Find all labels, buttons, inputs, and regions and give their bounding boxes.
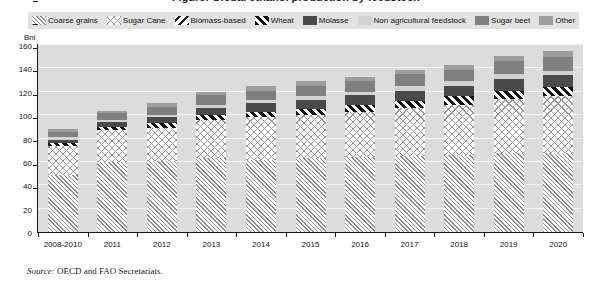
bar-segment-sugar-beet: [97, 113, 127, 120]
page-title: Figure: Global ethanol production by fee…: [0, 0, 591, 8]
x-axis-tick: [335, 233, 336, 237]
bar-segment-wheat: [345, 105, 375, 112]
y-axis-tick: [33, 95, 38, 96]
legend-swatch-icon: [475, 16, 489, 25]
bar-segment-sugar-cane: [444, 105, 474, 155]
y-axis-tick: [33, 48, 38, 49]
page-title-text: Figure: Global ethanol production by fee…: [0, 0, 591, 3]
y-axis-tick: [33, 24, 38, 25]
legend-item-label: Biomass-based: [191, 16, 246, 25]
y-axis-tick-label: 140: [2, 65, 32, 74]
bar-2012[interactable]: [147, 103, 177, 232]
legend-swatch-icon: [107, 16, 121, 25]
legend-item-label: Other: [555, 16, 575, 25]
bar-2018[interactable]: [444, 65, 474, 232]
bar-segment-sugar-cane: [147, 128, 177, 161]
legend-item-non-agricultural-feedstock[interactable]: Non agricultural feedstock: [358, 16, 467, 25]
legend-swatch-icon: [358, 16, 372, 25]
legend-item-label: Wheat: [271, 16, 294, 25]
y-axis-tick-label: 60: [2, 159, 32, 168]
gridline: [38, 44, 583, 45]
y-axis-tick: [33, 1, 38, 2]
bar-segment-wheat: [444, 96, 474, 104]
legend-item-label: Non agricultural feedstock: [374, 16, 467, 25]
x-axis-tick-label: 2014: [236, 240, 286, 249]
y-axis-tick: [33, 71, 38, 72]
x-axis-tick-label: 2011: [88, 240, 138, 249]
bar-segment-coarse-grains: [246, 160, 276, 232]
x-axis-tick: [88, 233, 89, 237]
bar-segment-molasse: [543, 75, 573, 87]
bar-segment-sugar-beet: [246, 91, 276, 100]
y-axis-tick: [33, 188, 38, 189]
bar-segment-sugar-cane: [196, 120, 226, 159]
bar-segment-coarse-grains: [345, 157, 375, 232]
legend-item-sugar-cane[interactable]: Sugar Cane: [107, 16, 166, 25]
legend-swatch-icon: [303, 16, 317, 25]
bar-2011[interactable]: [97, 111, 127, 233]
source-label: Source:: [27, 266, 55, 276]
bar-segment-molasse: [444, 86, 474, 97]
bar-segment-sugar-beet: [444, 70, 474, 82]
y-axis-tick-label: 100: [2, 112, 32, 121]
y-axis-tick-label: 80: [2, 136, 32, 145]
legend-item-biomass-based[interactable]: Biomass-based: [175, 16, 246, 25]
legend-swatch-icon: [539, 16, 553, 25]
legend-item-wheat[interactable]: Wheat: [255, 16, 294, 25]
bar-segment-molasse: [395, 91, 425, 102]
bar-segment-sugar-cane: [345, 112, 375, 158]
bar-segment-sugar-beet: [196, 95, 226, 104]
bar-2008-2010[interactable]: [48, 129, 78, 232]
bar-segment-molasse: [246, 103, 276, 111]
legend-item-label: Sugar beet: [491, 16, 530, 25]
bar-segment-sugar-cane: [494, 99, 524, 153]
bar-2020[interactable]: [543, 51, 573, 232]
y-axis-unit: Bnl: [24, 33, 36, 42]
bar-segment-wheat: [395, 101, 425, 108]
bar-segment-sugar-beet: [296, 86, 326, 97]
y-axis-tick-label: 0: [2, 229, 32, 238]
bar-2015[interactable]: [296, 81, 326, 232]
x-axis-tick: [385, 233, 386, 237]
legend-item-sugar-beet[interactable]: Sugar beet: [475, 16, 530, 25]
bar-2016[interactable]: [345, 77, 375, 232]
x-axis-tick: [434, 233, 435, 237]
bar-2017[interactable]: [395, 70, 425, 232]
x-axis-tick: [533, 233, 534, 237]
bar-segment-coarse-grains: [147, 161, 177, 232]
bar-2013[interactable]: [196, 92, 226, 232]
x-axis-tick: [286, 233, 287, 237]
x-axis-tick: [38, 233, 39, 237]
x-axis-tick: [583, 233, 584, 237]
y-axis-tick-label: 120: [2, 89, 32, 98]
x-axis-tick-label: 2008-2010: [38, 240, 88, 249]
y-axis-tick: [33, 165, 38, 166]
bar-segment-wheat: [543, 87, 573, 96]
bar-segment-molasse: [494, 79, 524, 91]
bar-segment-sugar-beet: [395, 74, 425, 86]
bar-segment-coarse-grains: [444, 155, 474, 232]
x-axis-tick-label: 2015: [286, 240, 336, 249]
y-axis-tick-label: 20: [2, 206, 32, 215]
bar-2019[interactable]: [494, 56, 524, 232]
legend-item-molasse[interactable]: Molasse: [303, 16, 349, 25]
bar-segment-coarse-grains: [196, 158, 226, 232]
bar-2014[interactable]: [246, 86, 276, 232]
bar-segment-molasse: [296, 100, 326, 109]
legend-swatch-icon: [255, 16, 269, 25]
x-axis-tick-label: 2018: [434, 240, 484, 249]
bar-segment-sugar-beet: [147, 107, 177, 115]
bar-segment-sugar-beet: [345, 81, 375, 92]
bar-segment-sugar-beet: [543, 57, 573, 71]
bar-segment-sugar-cane: [296, 115, 326, 158]
legend-item-label: Molasse: [319, 16, 349, 25]
legend-item-coarse-grains[interactable]: Coarse grains: [32, 16, 98, 25]
legend-item-other[interactable]: Other: [539, 16, 575, 25]
x-axis-tick: [187, 233, 188, 237]
x-axis-tick-label: 2017: [385, 240, 435, 249]
source-note: Source: OECD and FAO Secretariats.: [27, 266, 163, 276]
x-axis-line: [37, 232, 583, 233]
x-axis-tick: [137, 233, 138, 237]
y-axis-tick: [33, 118, 38, 119]
x-axis-tick: [236, 233, 237, 237]
